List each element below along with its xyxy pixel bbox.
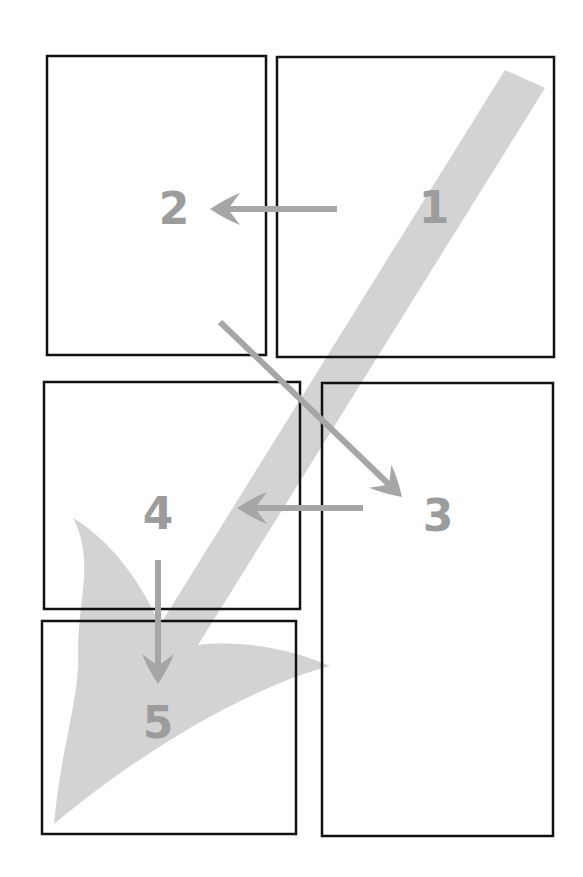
panel-number-4: 4	[143, 492, 174, 536]
diagram-canvas	[0, 0, 583, 877]
reading-order-diagram: 1 2 3 4 5	[0, 0, 583, 877]
arrow-1-to-2	[210, 193, 337, 225]
panel-number-2: 2	[159, 187, 190, 231]
panel-number-3: 3	[423, 494, 454, 538]
panel-number-5: 5	[143, 701, 174, 745]
panel-number-1: 1	[419, 186, 450, 230]
panel-box-2	[47, 56, 266, 355]
